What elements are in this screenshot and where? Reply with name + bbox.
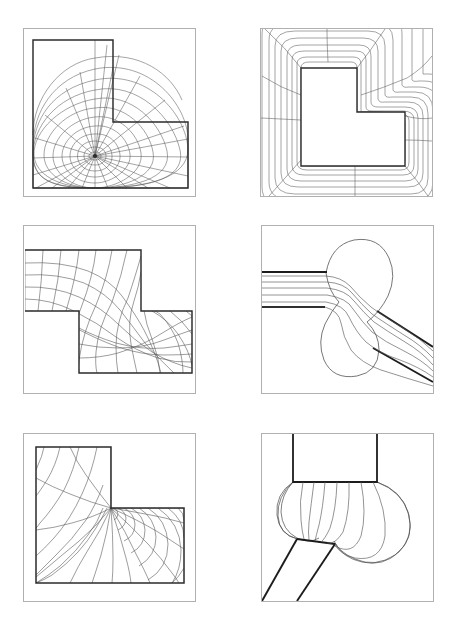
- panel-l-shape-exterior-field: Exterior equipotential and flux lines ar…: [231, 0, 461, 210]
- panel-l-shape-interior-polar-grid: L-shaped domain with interior polar grid…: [0, 0, 231, 210]
- panel-step-channel-grid: Curvilinear grid in a backward-facing st…: [0, 210, 231, 410]
- panel-bent-channel-streamlines: Streamlines through a dumbbell-shaped be…: [231, 210, 461, 410]
- panel-2-canvas: [231, 0, 461, 210]
- panel-1-canvas: [0, 0, 231, 210]
- panel-3-canvas: [0, 210, 231, 410]
- panel-1-frame: [24, 29, 196, 197]
- panel-1-singularity: [93, 154, 97, 158]
- panel-reentrant-corner-grid: Orthogonal grid clustered at a re-entran…: [0, 410, 231, 619]
- panel-6-slot-rect: [293, 434, 377, 482]
- panel-5-canvas: [0, 410, 231, 619]
- panel-grid: L-shaped domain with interior polar grid…: [0, 0, 461, 619]
- panel-4-canvas: [231, 210, 461, 410]
- panel-slot-to-duct-flow: Field lines from a wide rectangular slot…: [231, 410, 461, 619]
- panel-6-canvas: [231, 410, 461, 619]
- figure-sheet: L-shaped domain with interior polar grid…: [0, 0, 461, 619]
